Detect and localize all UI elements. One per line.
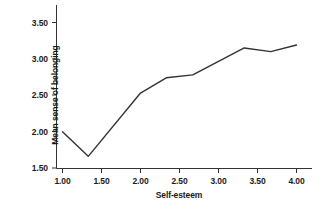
y-tick-label-3-00: 3.00 bbox=[22, 54, 48, 64]
y-tick-label-2-50: 2.50 bbox=[22, 90, 48, 100]
x-tick-label-1-00: 1.00 bbox=[54, 176, 70, 186]
x-axis-ticks bbox=[63, 169, 297, 174]
chart-figure: 3.50 3.00 2.50 2.00 1.50 1.00 1.50 2.00 … bbox=[0, 0, 329, 211]
x-tick-label-1-50: 1.50 bbox=[93, 176, 109, 186]
x-tick-label-2-00: 2.00 bbox=[132, 176, 148, 186]
data-series-line bbox=[63, 45, 297, 156]
x-tick-label-4-00: 4.00 bbox=[288, 176, 304, 186]
x-tick-label-2-50: 2.50 bbox=[171, 176, 187, 186]
y-tick-label-2-00: 2.00 bbox=[22, 127, 48, 137]
y-axis-label: Mean sense of belonging bbox=[50, 45, 60, 144]
y-tick-label-3-50: 3.50 bbox=[22, 18, 48, 28]
x-tick-label-3-50: 3.50 bbox=[249, 176, 265, 186]
x-axis-label: Self-esteem bbox=[156, 190, 203, 200]
y-tick-label-1-50: 1.50 bbox=[22, 163, 48, 173]
x-tick-label-3-00: 3.00 bbox=[210, 176, 226, 186]
